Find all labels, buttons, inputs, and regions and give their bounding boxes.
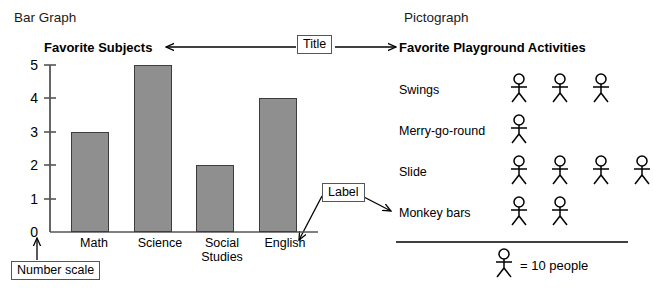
y-tick-label-4: 4 bbox=[18, 90, 38, 106]
label-arrow-to-picto-row bbox=[362, 196, 391, 211]
person-icon bbox=[549, 196, 571, 226]
bar-category-label-english: English bbox=[253, 236, 317, 250]
person-icon bbox=[590, 155, 612, 185]
picto-row-label-swings: Swings bbox=[399, 83, 439, 97]
person-icon bbox=[508, 114, 530, 144]
bar-english bbox=[259, 98, 297, 232]
bar-category-label-social-studies: Social Studies bbox=[192, 236, 252, 264]
person-icon bbox=[549, 73, 571, 103]
person-icon bbox=[631, 155, 653, 185]
picto-row-label-monkey-bars: Monkey bars bbox=[399, 206, 471, 220]
y-tick-label-1: 1 bbox=[18, 191, 38, 207]
person-icon bbox=[590, 73, 612, 103]
pictograph-key-text: = 10 people bbox=[520, 258, 588, 273]
y-tick-label-0: 0 bbox=[18, 224, 38, 240]
y-tick-label-5: 5 bbox=[18, 57, 38, 73]
y-tick-label-3: 3 bbox=[18, 124, 38, 140]
bar-social-studies bbox=[196, 165, 234, 232]
y-tick-label-2: 2 bbox=[18, 157, 38, 173]
bar-math bbox=[71, 132, 109, 232]
person-icon bbox=[508, 155, 530, 185]
person-icon bbox=[549, 155, 571, 185]
key-person-icon bbox=[493, 248, 515, 278]
picto-row-label-slide: Slide bbox=[399, 165, 427, 179]
bar-category-label-math: Math bbox=[62, 236, 126, 250]
bar-category-label-science: Science bbox=[125, 236, 195, 250]
person-icon bbox=[508, 196, 530, 226]
person-icon bbox=[508, 73, 530, 103]
picto-row-label-merry-go-round: Merry-go-round bbox=[399, 124, 485, 138]
bar-science bbox=[134, 65, 172, 232]
bar-graph: 5 4 3 2 1 0 Math Science Social Studies … bbox=[0, 0, 340, 293]
